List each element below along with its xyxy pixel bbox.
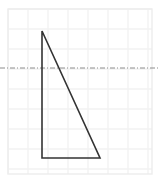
- figure-canvas: [0, 0, 160, 183]
- figure-svg: [0, 0, 160, 183]
- canvas-background: [0, 0, 160, 183]
